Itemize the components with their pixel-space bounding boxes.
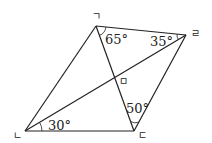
angle-arc-n [40,122,42,131]
angle-label-g: 65° [105,32,128,47]
side-r-d [134,35,186,131]
vertex-label-r: ㄹ [191,28,200,39]
side-n-g [25,26,96,131]
vertex-label-g: ㄱ [92,11,101,22]
angle-arc-r [177,34,178,40]
quadrilateral-figure: ㄱ ㄹ ㄴ ㄷ ㅁ 65° 35° 30° 50° [0,0,212,143]
angle-label-d: 50° [126,101,149,116]
diagonal-n-r [25,35,186,131]
vertex-label-m: ㅁ [119,76,128,87]
vertex-label-n: ㄴ [13,130,22,141]
angle-label-r: 35° [150,34,173,49]
vertex-label-d: ㄷ [138,130,147,141]
angle-label-n: 30° [48,118,71,133]
geometry-diagram: ㄱ ㄹ ㄴ ㄷ ㅁ 65° 35° 30° 50° [0,0,212,143]
angle-arc-d [131,122,139,123]
